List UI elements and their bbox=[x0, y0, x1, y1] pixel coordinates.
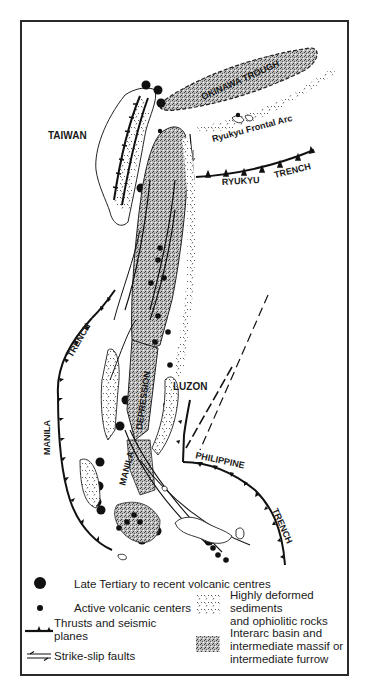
large-dot-icon bbox=[33, 576, 47, 590]
taiwan-label: TAIWAN bbox=[48, 130, 87, 141]
legend-deformed: Highly deformed sediments and ophiolitic… bbox=[230, 589, 347, 628]
taiwan-island: TAIWAN bbox=[48, 88, 156, 225]
ryukyu-trench: RYUKYU TRENCH bbox=[187, 134, 314, 187]
legend-active: Active volcanic centers bbox=[74, 602, 191, 615]
ryukyu-label: RYUKYU bbox=[222, 175, 260, 187]
legend-interarc: Interarc basin and intermediate massif o… bbox=[230, 627, 343, 666]
philippine-trench: PHILIPPINE TRENCH bbox=[176, 400, 295, 565]
legend-thrusts: Thrusts and seismic planes bbox=[54, 617, 156, 643]
manila-label: MANILA bbox=[42, 420, 52, 455]
strike-slip-arrows-icon bbox=[24, 650, 54, 662]
stipple-pattern-icon bbox=[196, 636, 220, 652]
philippine-trench-label: TRENCH bbox=[270, 507, 294, 545]
legend: Late Tertiary to recent volcanic centres… bbox=[20, 570, 347, 674]
luzon-label: LUZON bbox=[173, 381, 207, 392]
dashed-pattern-icon bbox=[196, 594, 220, 614]
philippine-label: PHILIPPINE bbox=[195, 450, 246, 470]
small-dot-icon bbox=[35, 603, 45, 613]
okinawa-trough: OKINAWA TROUGH bbox=[160, 48, 317, 110]
manila-trench-label: TRENCH bbox=[65, 322, 92, 359]
legend-strike-slip: Strike-slip faults bbox=[54, 650, 135, 663]
thrust-line-icon bbox=[24, 622, 54, 634]
active-volcano-dot bbox=[236, 113, 240, 117]
